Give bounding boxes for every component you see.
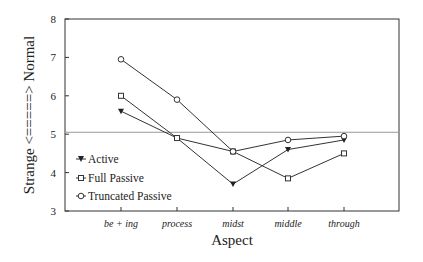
y-tick-label: 3 xyxy=(51,205,57,217)
x-tick-label: midst xyxy=(222,218,244,229)
legend-item-truncated-passive: Truncated Passive xyxy=(76,190,172,202)
y-tick-label: 6 xyxy=(51,90,57,102)
legend-item-active: Active xyxy=(76,153,119,165)
y-tick-label: 7 xyxy=(51,51,57,63)
y-axis: 345678 xyxy=(51,13,70,217)
series-active xyxy=(118,109,347,187)
legend: Active Full Passive Truncated Passive xyxy=(76,153,172,202)
line-chart: 345678 be + ingprocessmidstmiddlethrough… xyxy=(0,0,423,262)
legend-label: Active xyxy=(88,153,119,165)
series-full-passive xyxy=(119,93,347,181)
x-tick-label: process xyxy=(161,218,192,229)
legend-label: Truncated Passive xyxy=(88,190,172,202)
series-truncated-passive xyxy=(118,57,347,155)
y-axis-title: Strange <=====> Normal xyxy=(21,36,37,194)
legend-label: Full Passive xyxy=(88,172,144,184)
square-marker-icon xyxy=(79,176,84,181)
y-tick-label: 5 xyxy=(51,128,57,140)
x-tick-label: through xyxy=(328,218,359,229)
x-tick-label: middle xyxy=(274,218,302,229)
series-lines xyxy=(118,57,347,188)
x-axis-title: Aspect xyxy=(211,232,253,248)
y-tick-label: 4 xyxy=(51,167,57,179)
circle-marker-icon xyxy=(78,193,84,199)
x-tick-label: be + ing xyxy=(104,218,138,229)
y-tick-label: 8 xyxy=(51,13,57,25)
legend-item-full-passive: Full Passive xyxy=(76,172,144,184)
x-axis: be + ingprocessmidstmiddlethrough xyxy=(104,207,360,229)
